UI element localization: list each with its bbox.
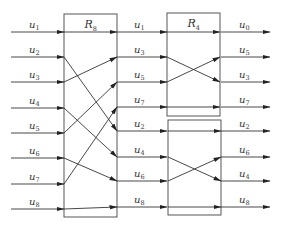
input-label-6: u6 <box>29 145 40 158</box>
box-R4b <box>168 120 221 215</box>
box-label-R8: R8 <box>84 18 97 33</box>
input-label-5: u5 <box>29 120 40 133</box>
permutation-network-diagram: R8R4u1u2u3u4u5u6u7u8u1u3u5u7u2u4u6u8u0u5… <box>0 0 281 225</box>
output-label-7: u4 <box>239 168 250 181</box>
output-label-5: u2 <box>239 118 250 131</box>
middle-label-8: u8 <box>134 194 145 207</box>
box-label-R4a: R4 <box>187 17 200 32</box>
r8-connection-8 <box>64 207 117 209</box>
r8-connection-5 <box>64 82 117 133</box>
input-label-3: u3 <box>29 69 40 82</box>
output-label-2: u5 <box>239 44 250 57</box>
output-label-8: u8 <box>239 194 250 207</box>
input-label-4: u4 <box>29 95 40 108</box>
input-label-7: u7 <box>29 171 40 184</box>
r8-connection-3 <box>64 57 117 82</box>
r8-connection-6 <box>64 158 117 181</box>
output-label-3: u3 <box>239 69 250 82</box>
output-label-1: u0 <box>239 19 250 32</box>
middle-label-6: u4 <box>134 144 145 157</box>
middle-label-3: u5 <box>134 69 145 82</box>
middle-label-5: u2 <box>134 118 145 131</box>
middle-label-4: u7 <box>134 94 145 107</box>
output-label-6: u6 <box>239 144 250 157</box>
output-label-4: u7 <box>239 94 250 107</box>
signal-labels: R8R4u1u2u3u4u5u6u7u8u1u3u5u7u2u4u6u8u0u5… <box>29 17 250 209</box>
middle-label-7: u6 <box>134 168 145 181</box>
r8-connection-2 <box>64 57 117 131</box>
middle-label-1: u1 <box>134 19 145 32</box>
middle-label-2: u3 <box>134 44 145 57</box>
input-label-2: u2 <box>29 44 40 57</box>
input-label-8: u8 <box>29 196 40 209</box>
signal-lines <box>11 32 270 209</box>
r8-connection-7 <box>64 107 117 184</box>
r8-connection-4 <box>64 108 117 157</box>
input-label-1: u1 <box>29 19 40 32</box>
module-boxes <box>64 13 221 217</box>
